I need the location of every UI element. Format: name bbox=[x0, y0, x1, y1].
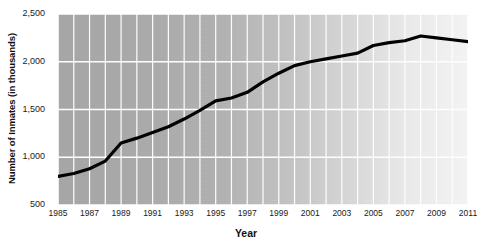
y-tick-label: 2,500 bbox=[0, 8, 45, 18]
y-tick-label: 2,000 bbox=[0, 56, 45, 66]
x-axis-title: Year bbox=[0, 227, 492, 239]
line-chart: Number of Inmates (in thousands) 2,5002,… bbox=[0, 0, 492, 243]
y-tick-label: 1,000 bbox=[0, 151, 45, 161]
y-tick-label: 1,500 bbox=[0, 104, 45, 114]
plot-svg bbox=[58, 14, 468, 205]
plot-area bbox=[58, 14, 468, 205]
x-tick-label: 2011 bbox=[448, 208, 488, 218]
